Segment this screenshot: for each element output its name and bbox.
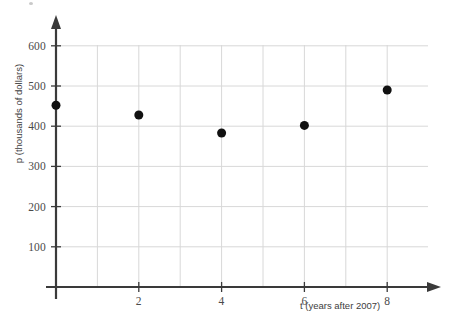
x-tick-label-8: 8 [384, 295, 390, 307]
data-point-0 [52, 101, 61, 110]
grid-lines [56, 45, 428, 287]
y-tick-label-200: 200 [8, 201, 46, 213]
axis-lines [46, 15, 441, 299]
scan-artifact-speck [29, 2, 33, 5]
y-tick-label-100: 100 [8, 241, 46, 253]
data-point-1 [134, 110, 143, 119]
y-axis-title: p (thousands of dollars) [13, 34, 24, 194]
data-point-4 [383, 86, 392, 95]
x-tick-label-4: 4 [219, 295, 225, 307]
tick-marks [51, 46, 387, 292]
x-axis-title: t (years after 2007) [300, 300, 380, 311]
data-point-3 [300, 121, 309, 130]
scatter-plot-figure: 100200300400500600 2468 p (thousands of … [0, 0, 457, 325]
x-tick-label-2: 2 [136, 295, 142, 307]
data-point-2 [217, 129, 226, 138]
plot-canvas [0, 0, 457, 325]
